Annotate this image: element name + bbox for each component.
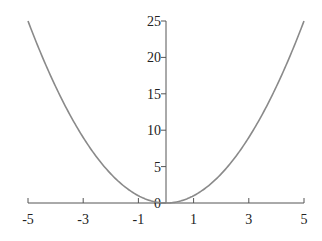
y-tick-label: 0 bbox=[154, 196, 161, 211]
y-tick-label: 25 bbox=[147, 14, 161, 29]
x-tick-label: -3 bbox=[77, 212, 89, 227]
y-tick-label: 10 bbox=[147, 123, 161, 138]
x-tick-label: 1 bbox=[190, 212, 197, 227]
y-tick-label: 20 bbox=[147, 50, 161, 65]
parabola-chart: -5-3-1135 0510152025 bbox=[0, 0, 322, 241]
y-tick-label: 5 bbox=[154, 160, 161, 175]
y-axis: 0510152025 bbox=[147, 14, 166, 211]
x-tick-label: -5 bbox=[22, 212, 34, 227]
x-tick-label: -1 bbox=[133, 212, 145, 227]
x-tick-label: 5 bbox=[301, 212, 308, 227]
y-tick-label: 15 bbox=[147, 87, 161, 102]
x-tick-label: 3 bbox=[245, 212, 252, 227]
